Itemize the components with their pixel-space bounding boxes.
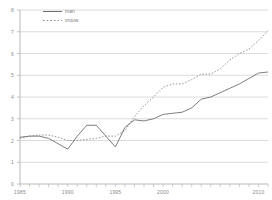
legend-item-vrouw: vrouw: [43, 16, 95, 25]
chart-canvas: [0, 0, 272, 200]
x-tick-label: 2010: [246, 189, 270, 195]
series-line-vrouw: [20, 31, 268, 141]
y-tick-label: 3: [2, 116, 14, 122]
y-tick-label: 4: [2, 94, 14, 100]
grid-lines: [20, 10, 268, 162]
x-tick-label: 1990: [56, 189, 80, 195]
legend-label-man: man: [65, 7, 75, 16]
x-tick-label: 2000: [151, 189, 175, 195]
y-tick-label: 8: [2, 7, 14, 13]
y-tick-label: 5: [2, 72, 14, 78]
legend-swatch-vrouw: [43, 20, 62, 21]
legend-item-man: man: [43, 7, 95, 16]
y-tick-label: 0: [2, 181, 14, 187]
legend-label-vrouw: vrouw: [65, 16, 78, 25]
chart-legend: man vrouw: [43, 7, 95, 25]
y-tick-label: 6: [2, 51, 14, 57]
series-line-man: [20, 72, 268, 149]
x-tick-label: 1995: [103, 189, 127, 195]
x-tick-label: 1985: [8, 189, 32, 195]
y-tick-label: 2: [2, 138, 14, 144]
legend-swatch-man: [43, 11, 62, 12]
y-tick-label: 7: [2, 29, 14, 35]
y-tick-label: 1: [2, 159, 14, 165]
line-chart: 012345678 19851990199520002010 man vrouw: [0, 0, 272, 200]
